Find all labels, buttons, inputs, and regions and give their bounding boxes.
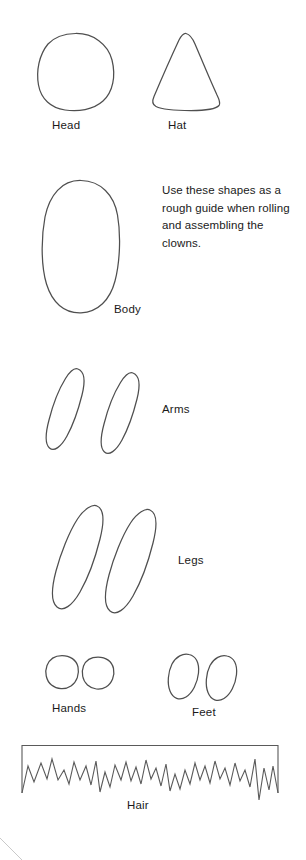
head-shape bbox=[38, 33, 114, 110]
label-feet: Feet bbox=[192, 706, 216, 718]
arms-shape bbox=[46, 369, 139, 454]
body-shape bbox=[42, 180, 119, 312]
label-arms: Arms bbox=[162, 403, 190, 415]
label-legs: Legs bbox=[178, 554, 204, 566]
label-hat: Hat bbox=[168, 119, 187, 131]
hat-shape bbox=[153, 33, 220, 110]
label-head: Head bbox=[52, 119, 80, 131]
instruction-text: Use these shapes as a rough guide when r… bbox=[162, 182, 302, 252]
page-edge-fragment bbox=[0, 838, 22, 860]
label-body: Body bbox=[114, 303, 141, 315]
shape-illustrations bbox=[0, 0, 306, 860]
legs-shape bbox=[53, 505, 156, 612]
hands-shape bbox=[46, 656, 114, 690]
hair-shape bbox=[22, 746, 278, 801]
feet-shape bbox=[168, 654, 236, 700]
label-hands: Hands bbox=[52, 702, 86, 714]
label-hair: Hair bbox=[127, 799, 149, 811]
worksheet-page: Head Hat Body Arms Legs Hands Feet Hair … bbox=[0, 0, 306, 860]
